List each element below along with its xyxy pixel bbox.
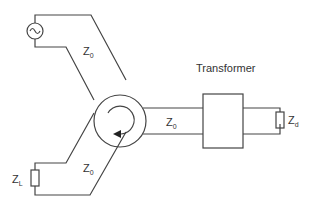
zd-lower-line bbox=[243, 124, 280, 134]
z0-top-label: Z0 bbox=[83, 45, 94, 59]
circulator bbox=[94, 95, 146, 147]
bottom-arm: Z0 ZL bbox=[12, 113, 126, 195]
load-zd: Zd bbox=[243, 108, 299, 134]
circulator-body bbox=[94, 95, 146, 147]
ac-source-icon bbox=[27, 23, 43, 39]
z0-right-label: Z0 bbox=[166, 116, 177, 130]
zd-label: Zd bbox=[288, 114, 299, 128]
resistor-zl-icon bbox=[31, 170, 39, 186]
top-arm: Z0 bbox=[27, 15, 126, 100]
z0-bottom-label: Z0 bbox=[83, 162, 94, 176]
right-arm: Z0 bbox=[143, 108, 203, 134]
zd-upper-line bbox=[243, 108, 280, 112]
circulator-arrow-arc bbox=[108, 106, 134, 134]
transformer: Transformer bbox=[196, 62, 256, 148]
circulator-arrow-head-icon bbox=[113, 130, 121, 138]
zl-label: ZL bbox=[12, 173, 23, 187]
transformer-label: Transformer bbox=[196, 62, 256, 74]
circulator-diagram: Z0 Z0 Transformer Zd Z0 ZL bbox=[0, 0, 312, 206]
transformer-box bbox=[203, 94, 243, 148]
